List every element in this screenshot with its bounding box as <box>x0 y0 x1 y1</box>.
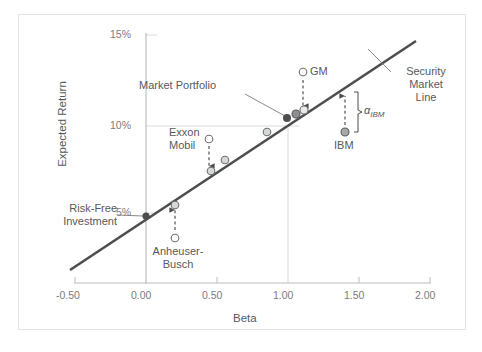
x-tick-000: 0.00 <box>131 289 151 301</box>
figure-canvas: Expected Return 15% 10% 5% -0.50 0.00 0.… <box>0 0 482 352</box>
x-tick-050: 0.50 <box>202 289 222 301</box>
security-market-line <box>70 41 416 270</box>
security-market-line-label: Security Market Line <box>396 65 456 104</box>
exxon-mobil-label: Exxon Mobil <box>169 126 200 152</box>
marker-online-2 <box>221 156 229 164</box>
marker-gm <box>299 68 307 76</box>
y-tick-5: 5% <box>116 206 131 218</box>
marker-online-4 <box>292 110 300 118</box>
marker-online-1 <box>207 167 215 175</box>
marker-ibm <box>341 128 349 136</box>
y-axis-title: Expected Return <box>56 54 68 194</box>
marker-anheuser-online <box>171 201 179 209</box>
y-tick-15: 15% <box>110 28 131 40</box>
gm-label: GM <box>310 65 328 78</box>
anheuser-busch-label: Anheuser- Busch <box>146 245 210 271</box>
alpha-subscript: IBM <box>370 110 384 119</box>
marker-gm-online <box>300 106 308 114</box>
risk-free-investment-label: Risk-Free Investment <box>35 202 117 228</box>
alpha-bracket <box>354 92 362 132</box>
alpha-ibm-label: αIBM <box>364 104 385 120</box>
off-line-markers <box>171 68 349 242</box>
leader-lines <box>118 49 391 216</box>
x-tick-200: 2.00 <box>415 289 435 301</box>
market-portfolio-label: Market Portfolio <box>139 79 216 92</box>
marker-market-portfolio <box>283 114 291 122</box>
axis-lines <box>74 33 431 284</box>
ibm-label: IBM <box>334 139 354 152</box>
x-axis-title: Beta <box>233 312 257 324</box>
marker-exxon-mobil <box>205 135 213 143</box>
marker-online-3 <box>263 128 271 136</box>
x-tick-100: 1.00 <box>273 289 293 301</box>
on-line-markers <box>142 106 308 220</box>
x-tick-neg050: -0.50 <box>56 289 80 301</box>
y-tick-10: 10% <box>110 119 131 131</box>
marker-risk-free <box>142 212 149 219</box>
marker-anheuser-busch <box>171 234 179 242</box>
x-tick-150: 1.50 <box>344 289 364 301</box>
